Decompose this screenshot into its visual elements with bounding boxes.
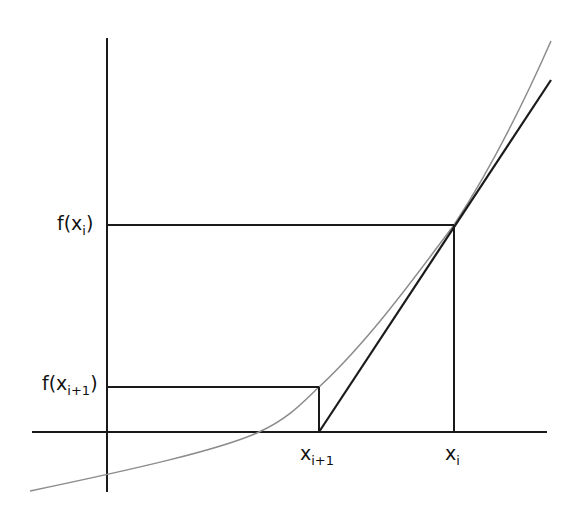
label-f-xi1: f(xi+1) — [42, 374, 98, 393]
label-f-xi-close: ) — [86, 212, 93, 234]
label-xi-sub: i — [456, 453, 460, 468]
function-curve — [30, 41, 551, 491]
label-xi-base: x — [445, 442, 456, 464]
label-xi1-sub: i+1 — [311, 453, 334, 468]
label-f-xi1-sub: i+1 — [67, 383, 90, 398]
label-f-xi1-close: ) — [90, 372, 97, 394]
label-xi1: xi+1 — [300, 444, 334, 463]
label-xi: xi — [445, 444, 460, 463]
label-f-xi: f(xi) — [57, 214, 93, 233]
newton-method-diagram: f(xi) f(xi+1) xi+1 xi — [0, 0, 579, 524]
label-f-xi1-base: f(x — [42, 372, 67, 394]
label-xi1-base: x — [300, 442, 311, 464]
label-f-xi-base: f(x — [57, 212, 82, 234]
tangent-line — [319, 80, 551, 432]
diagram-canvas — [0, 0, 579, 524]
